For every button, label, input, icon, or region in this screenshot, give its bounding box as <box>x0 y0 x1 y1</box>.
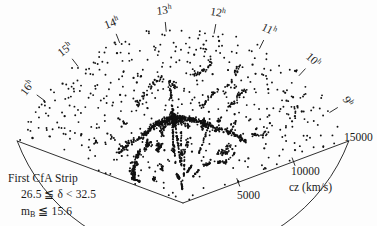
galaxy-point <box>131 132 133 134</box>
galaxy-point <box>131 177 133 179</box>
galaxy-point <box>322 145 324 147</box>
galaxy-point <box>212 127 214 129</box>
galaxy-point <box>333 142 335 144</box>
galaxy-point <box>156 180 158 182</box>
galaxy-point <box>120 101 122 103</box>
galaxy-point <box>132 77 134 79</box>
galaxy-point <box>104 52 106 54</box>
galaxy-point <box>180 160 182 162</box>
galaxy-point <box>74 132 76 134</box>
galaxy-point <box>217 118 219 120</box>
galaxy-point <box>120 126 122 128</box>
galaxy-point <box>172 125 174 127</box>
galaxy-point <box>177 140 179 142</box>
galaxy-point <box>239 96 241 98</box>
galaxy-point <box>106 132 108 134</box>
galaxy-point <box>52 128 54 130</box>
galaxy-point <box>120 110 122 112</box>
galaxy-point <box>301 151 303 153</box>
galaxy-point <box>111 136 113 138</box>
galaxy-point <box>262 135 264 137</box>
galaxy-point <box>35 111 37 113</box>
galaxy-point <box>175 161 177 163</box>
galaxy-point <box>205 40 207 42</box>
galaxy-point <box>119 151 121 153</box>
galaxy-point <box>122 121 124 123</box>
galaxy-point <box>195 116 197 118</box>
galaxy-point <box>246 89 248 91</box>
galaxy-point <box>238 159 240 161</box>
galaxy-point <box>194 70 196 72</box>
galaxy-point <box>221 128 223 130</box>
galaxy-point <box>170 85 172 87</box>
galaxy-point <box>294 149 296 151</box>
galaxy-point <box>170 113 172 115</box>
galaxy-point <box>181 103 183 105</box>
galaxy-point <box>189 62 191 64</box>
galaxy-point <box>149 141 151 143</box>
galaxy-point <box>183 117 185 119</box>
galaxy-point <box>192 119 194 121</box>
galaxy-point <box>96 123 98 125</box>
galaxy-point <box>169 66 171 68</box>
galaxy-point <box>189 46 191 48</box>
galaxy-point <box>172 192 174 194</box>
galaxy-point <box>27 121 29 123</box>
galaxy-point <box>258 108 260 110</box>
galaxy-point <box>240 136 242 138</box>
hour-tick-13 <box>165 22 166 31</box>
galaxy-point <box>247 76 249 78</box>
galaxy-point <box>101 61 103 63</box>
galaxy-point <box>181 153 183 155</box>
galaxy-point <box>148 130 150 132</box>
galaxy-point <box>54 99 56 101</box>
galaxy-point <box>63 149 65 151</box>
galaxy-point <box>199 149 201 151</box>
galaxy-point <box>137 164 139 166</box>
galaxy-point <box>158 51 160 53</box>
galaxy-point <box>166 117 168 119</box>
galaxy-point <box>252 135 254 137</box>
galaxy-point <box>317 124 319 126</box>
galaxy-point <box>230 103 232 105</box>
galaxy-point <box>199 147 201 149</box>
galaxy-point <box>192 194 194 196</box>
galaxy-point <box>266 133 268 135</box>
galaxy-point <box>267 116 269 118</box>
galaxy-point <box>147 132 149 134</box>
galaxy-point <box>134 163 136 165</box>
galaxy-point <box>184 152 186 154</box>
galaxy-point <box>236 99 238 101</box>
galaxy-point <box>217 129 219 131</box>
galaxy-point <box>186 123 188 125</box>
galaxy-point <box>254 133 256 135</box>
galaxy-point <box>264 131 266 133</box>
galaxy-point <box>239 64 241 66</box>
galaxy-point <box>168 99 170 101</box>
galaxy-point <box>177 121 179 123</box>
galaxy-point <box>172 115 174 117</box>
galaxy-point <box>236 68 238 70</box>
galaxy-point <box>199 176 201 178</box>
galaxy-point <box>104 114 106 116</box>
galaxy-point <box>186 61 188 63</box>
galaxy-point <box>170 92 172 94</box>
galaxy-point <box>195 49 197 51</box>
galaxy-point <box>281 99 283 101</box>
galaxy-point <box>194 96 196 98</box>
galaxy-point <box>199 65 201 67</box>
galaxy-point <box>199 30 201 32</box>
hour-tick-15 <box>72 59 77 66</box>
galaxy-point <box>138 103 140 105</box>
galaxy-point <box>205 100 207 102</box>
galaxy-point <box>105 172 107 174</box>
galaxy-point <box>73 82 75 84</box>
galaxy-point <box>209 56 211 58</box>
galaxy-point <box>122 60 124 62</box>
galaxy-point <box>174 84 176 86</box>
galaxy-point <box>236 95 238 97</box>
galaxy-point <box>166 121 168 123</box>
galaxy-point <box>126 122 128 124</box>
galaxy-point <box>183 156 185 158</box>
galaxy-point <box>142 156 144 158</box>
